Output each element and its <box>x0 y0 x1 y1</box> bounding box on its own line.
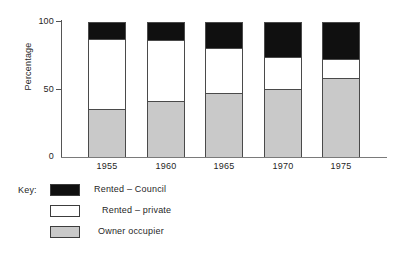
segment-rented-council-1960 <box>148 23 184 40</box>
segment-rented-council-1975 <box>323 23 359 59</box>
x-tick-label-1975: 1975 <box>311 162 371 171</box>
white-swatch-icon <box>50 205 80 217</box>
stacked-bar-chart-figure: Percentage 100 50 0 <box>0 0 403 266</box>
segment-rented-council-1970 <box>265 23 301 57</box>
legend-item-owner-occupier: Owner occupier <box>50 225 164 238</box>
bar-group-1955 <box>88 22 126 157</box>
legend-label-rented-council: Rented – Council <box>94 185 166 194</box>
legend-title: Key: <box>18 186 37 195</box>
black-swatch-icon <box>50 184 80 196</box>
segment-rented-private-1960 <box>148 40 184 102</box>
stacked-bar-1960 <box>147 22 185 157</box>
segment-owner-occupier-1975 <box>323 79 359 157</box>
stacked-bar-1970 <box>264 22 302 157</box>
x-axis-line <box>61 157 387 158</box>
y-tick-label-0: 0 <box>49 152 54 161</box>
segment-rented-council-1955 <box>89 23 125 39</box>
segment-owner-occupier-1960 <box>148 102 184 157</box>
stacked-bar-1965 <box>205 22 243 157</box>
x-tick-label-1955: 1955 <box>77 162 137 171</box>
plot-area <box>62 20 380 157</box>
stacked-bar-1975 <box>322 22 360 157</box>
segment-owner-occupier-1970 <box>265 90 301 157</box>
x-tick-label-1970: 1970 <box>253 162 313 171</box>
legend-label-owner-occupier: Owner occupier <box>98 227 164 236</box>
legend-label-rented-private: Rented – private <box>102 206 171 215</box>
legend-item-rented-private: Rented – private <box>50 204 171 217</box>
x-tick-label-1965: 1965 <box>194 162 254 171</box>
segment-owner-occupier-1955 <box>89 110 125 157</box>
x-tick-label-1960: 1960 <box>136 162 196 171</box>
segment-rented-private-1955 <box>89 39 125 110</box>
y-tick-label-50: 50 <box>44 85 54 94</box>
bar-group-1975 <box>322 22 360 157</box>
segment-rented-private-1965 <box>206 48 242 94</box>
stacked-bar-1955 <box>88 22 126 157</box>
y-tick-label-100: 100 <box>38 17 54 26</box>
grey-swatch-icon <box>50 226 80 238</box>
bar-group-1965 <box>205 22 243 157</box>
segment-rented-council-1965 <box>206 23 242 48</box>
segment-rented-private-1975 <box>323 59 359 79</box>
segment-owner-occupier-1965 <box>206 94 242 157</box>
y-axis-title: Percentage <box>24 27 33 107</box>
segment-rented-private-1970 <box>265 57 301 91</box>
bar-group-1970 <box>264 22 302 157</box>
bar-group-1960 <box>147 22 185 157</box>
legend-item-rented-council: Rented – Council <box>50 183 166 196</box>
